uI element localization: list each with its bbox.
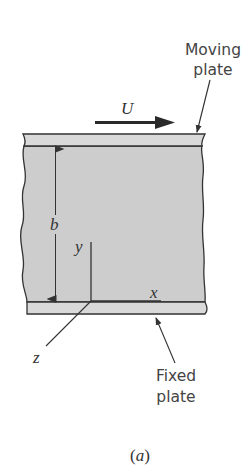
fixed-plate-label-line1: Fixed bbox=[156, 367, 196, 385]
couette-flow-diagram: U Moving plate b y x z Fixed plate (a) bbox=[0, 0, 250, 474]
moving-plate-leader-arrow-icon bbox=[197, 80, 210, 132]
velocity-label: U bbox=[121, 99, 135, 118]
fluid-region bbox=[20, 146, 205, 302]
velocity-arrow-icon bbox=[95, 116, 175, 129]
gap-label: b bbox=[50, 215, 59, 234]
fixed-plate bbox=[27, 302, 207, 314]
moving-plate-label-line1: Moving bbox=[185, 41, 241, 59]
x-axis-label: x bbox=[149, 283, 158, 302]
y-axis-label: y bbox=[73, 237, 83, 256]
figure-caption: (a) bbox=[130, 446, 150, 465]
z-axis-label: z bbox=[32, 348, 40, 367]
moving-plate-label-line2: plate bbox=[193, 61, 232, 79]
fixed-plate-leader-arrow-icon bbox=[156, 318, 175, 363]
moving-plate bbox=[23, 134, 205, 146]
fixed-plate-label-line2: plate bbox=[156, 388, 195, 406]
